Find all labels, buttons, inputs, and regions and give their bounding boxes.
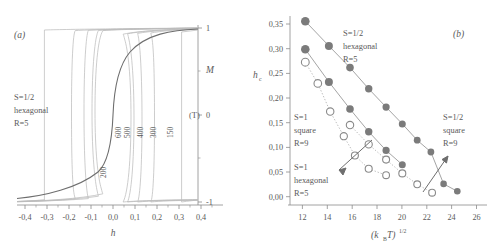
data-point bbox=[414, 181, 421, 188]
data-point bbox=[399, 120, 406, 127]
curve-label-400: 400 bbox=[136, 127, 145, 138]
panel-b-xtick-1: 14 bbox=[323, 213, 331, 222]
panel-a-xtick-6: 0,2 bbox=[152, 213, 162, 222]
panel-a-anno-line-2: hexagonal bbox=[14, 106, 49, 115]
series-half-square-markers bbox=[346, 121, 435, 196]
curve-label-500: 500 bbox=[123, 127, 132, 138]
curve-label-300: 300 bbox=[149, 127, 158, 138]
panel-a-id: (a) bbox=[14, 30, 25, 41]
panel-b-svg: (b) S=1/2 hexagonal R=5 S=1 square R=9 S… bbox=[247, 0, 495, 252]
panel-a-ytick-labels: 1 0 -1 M bbox=[205, 24, 215, 207]
panel-b-ytick-1: 0,05 bbox=[269, 168, 283, 177]
data-point bbox=[325, 42, 333, 50]
data-point bbox=[365, 165, 372, 172]
panel-a-annotation: S=1/2 hexagonal R=5 bbox=[14, 93, 49, 128]
panel-a-xtick-labels: -0,4 -0,3 -0,2 -0,1 0,0 0,1 0,2 0,3 0,4 bbox=[19, 213, 207, 222]
panel-a-ytick-1: 1 bbox=[206, 24, 210, 33]
curve-label-600: 600 bbox=[114, 127, 123, 138]
data-point bbox=[325, 78, 333, 86]
panel-b-leader-arrows bbox=[339, 140, 448, 192]
panel-b-xtick-labels: 12 14 16 18 20 22 24 26 bbox=[298, 213, 480, 222]
panel-a-anno-line-1: S=1/2 bbox=[14, 93, 34, 102]
panel-b-xlabel-mid: T) bbox=[387, 230, 395, 241]
data-point bbox=[301, 45, 310, 54]
data-point bbox=[383, 147, 390, 154]
panel-b-ylabel-base: h bbox=[253, 70, 258, 80]
panel-b-ytick-4: 0,20 bbox=[269, 94, 283, 103]
anno-one-hex-line-3: R=5 bbox=[294, 189, 309, 198]
panel-a-ytick-m1: -1 bbox=[206, 198, 213, 207]
data-point bbox=[399, 161, 406, 168]
anno-half-square-line-3: R=9 bbox=[443, 139, 458, 148]
arrow-head bbox=[442, 156, 448, 163]
anno-half-hex-line-1: S=1/2 bbox=[343, 29, 363, 38]
panel-b-ytick-6: 0,30 bbox=[269, 45, 283, 54]
panel-a-curve-labels: 600 500 400 300 150 200 (T) bbox=[99, 111, 200, 178]
panel-b-xtick-6: 24 bbox=[448, 213, 456, 222]
data-point bbox=[301, 17, 310, 26]
panel-b-xtick-7: 26 bbox=[472, 213, 480, 222]
panel-a-xtick-8: 0,4 bbox=[196, 213, 206, 222]
panel-b-ylabel: h c bbox=[253, 70, 262, 82]
data-point bbox=[365, 128, 372, 135]
panel-a-xtick-1: -0,3 bbox=[41, 213, 54, 222]
data-point bbox=[428, 149, 435, 156]
panel-b-ytick-3: 0,15 bbox=[269, 119, 283, 128]
panel-a-ytick-0: 0 bbox=[206, 111, 210, 120]
panel-b-ytick-7: 0,35 bbox=[269, 20, 283, 29]
panel-a-xtick-5: 0,1 bbox=[130, 213, 140, 222]
panel-b: (b) S=1/2 hexagonal R=5 S=1 square R=9 S… bbox=[247, 0, 495, 252]
data-point bbox=[454, 188, 461, 195]
data-point bbox=[383, 156, 390, 163]
panel-a-anno-line-3: R=5 bbox=[14, 119, 29, 128]
curve-label-200: 200 bbox=[99, 167, 108, 178]
panel-b-xtick-3: 18 bbox=[373, 213, 381, 222]
panel-a-xtick-7: 0,3 bbox=[174, 213, 184, 222]
data-point bbox=[346, 121, 353, 128]
panel-b-xlabel-sup: 1/2 bbox=[399, 228, 407, 234]
anno-half-hex-line-2: hexagonal bbox=[343, 42, 378, 51]
data-point bbox=[383, 172, 390, 179]
panel-b-xtick-0: 12 bbox=[298, 213, 306, 222]
anno-half-hex-line-3: R=5 bbox=[343, 55, 358, 64]
data-point bbox=[399, 170, 406, 177]
panel-a-ylabel: M bbox=[205, 65, 215, 75]
panel-a-xtick-0: -0,4 bbox=[19, 213, 32, 222]
panel-b-xtick-4: 20 bbox=[398, 213, 406, 222]
panel-b-ytick-5: 0,25 bbox=[269, 69, 283, 78]
data-point bbox=[414, 137, 421, 144]
panel-b-ytick-labels: 0,00 0,05 0,10 0,15 0,20 0,25 0,30 0,35 bbox=[269, 20, 283, 202]
panel-b-xtick-5: 22 bbox=[423, 213, 431, 222]
panel-a-xtick-2: -0,2 bbox=[63, 213, 76, 222]
panel-a-xtick-3: -0,1 bbox=[85, 213, 98, 222]
data-point bbox=[440, 181, 447, 188]
data-point bbox=[383, 104, 390, 111]
data-point bbox=[346, 105, 354, 113]
panel-b-ytick-2: 0,10 bbox=[269, 143, 283, 152]
panel-a: 600 500 400 300 150 200 (T) (a) S=1/2 he… bbox=[0, 0, 248, 252]
data-point bbox=[327, 108, 334, 115]
data-point bbox=[340, 133, 347, 140]
data-point bbox=[365, 85, 372, 92]
anno-half-square-line-1: S=1/2 bbox=[443, 113, 463, 122]
panel-a-xtick-4: 0,0 bbox=[108, 213, 118, 222]
panel-a-svg: 600 500 400 300 150 200 (T) (a) S=1/2 he… bbox=[0, 0, 248, 252]
data-point bbox=[429, 189, 436, 196]
panel-b-ylabel-sub: c bbox=[259, 76, 262, 82]
data-point bbox=[346, 64, 354, 72]
data-point bbox=[314, 80, 322, 88]
anno-one-square-line-2: square bbox=[294, 126, 316, 135]
anno-one-square-line-3: R=9 bbox=[294, 139, 309, 148]
panel-b-id: (b) bbox=[453, 29, 464, 40]
data-point bbox=[301, 58, 309, 66]
panel-b-xlabel: (k B T) 1/2 bbox=[371, 228, 407, 242]
data-point bbox=[365, 141, 372, 148]
anno-one-square-line-1: S=1 bbox=[294, 113, 308, 122]
panel-a-xlabel: h bbox=[111, 228, 116, 238]
series-one-square-markers bbox=[301, 58, 389, 178]
panel-b-ytick-0: 0,00 bbox=[269, 193, 283, 202]
panel-b-xtick-2: 16 bbox=[348, 213, 356, 222]
panel-a-unit-label: (T) bbox=[189, 111, 200, 120]
anno-one-hex-line-1: S=1 bbox=[294, 163, 308, 172]
anno-one-hex-line-2: hexagonal bbox=[294, 176, 329, 185]
